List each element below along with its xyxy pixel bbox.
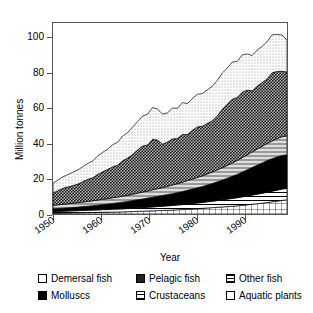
- fisheries-production-chart: Million tonnes 0 20 40 60 80 100 1950 19…: [0, 0, 313, 313]
- legend-label: Crustaceans: [149, 291, 205, 301]
- legend-item-aquatic-plants: Aquatic plants: [226, 291, 313, 301]
- legend-item-other-fish: Other fish: [226, 274, 313, 284]
- demersal-swatch-icon: [38, 274, 47, 283]
- x-tick-label-1960: 1960: [80, 214, 105, 236]
- x-tick-label-1990: 1990: [224, 214, 249, 236]
- y-tick-label-20: 20: [14, 174, 44, 184]
- plot-area: [52, 22, 288, 215]
- plants-swatch-icon: [226, 291, 235, 300]
- legend: Demersal fish Pelagic fish Other fish Mo…: [38, 270, 306, 304]
- legend-label: Other fish: [239, 274, 282, 284]
- legend-item-pelagic-fish: Pelagic fish: [136, 274, 226, 284]
- legend-item-crustaceans: Crustaceans: [136, 291, 226, 301]
- x-axis-title: Year: [52, 252, 288, 263]
- legend-item-demersal-fish: Demersal fish: [38, 274, 136, 284]
- y-tick-label-40: 40: [14, 139, 44, 149]
- legend-label: Demersal fish: [51, 274, 112, 284]
- pelagic-swatch-icon: [136, 274, 145, 283]
- legend-item-molluscs: Molluscs: [38, 291, 136, 301]
- legend-label: Molluscs: [51, 291, 90, 301]
- other-fish-swatch-icon: [226, 274, 235, 283]
- stacked-area-svg: [53, 23, 287, 214]
- legend-label: Aquatic plants: [239, 291, 302, 301]
- x-tick-label-1980: 1980: [176, 214, 201, 236]
- crustaceans-swatch-icon: [136, 291, 145, 300]
- y-tick-label-0: 0: [14, 210, 44, 220]
- legend-label: Pelagic fish: [149, 274, 200, 284]
- molluscs-swatch-icon: [38, 291, 47, 300]
- x-tick-label-1970: 1970: [128, 214, 153, 236]
- y-tick-label-60: 60: [14, 103, 44, 113]
- y-tick-label-80: 80: [14, 68, 44, 78]
- y-tick-label-100: 100: [14, 32, 44, 42]
